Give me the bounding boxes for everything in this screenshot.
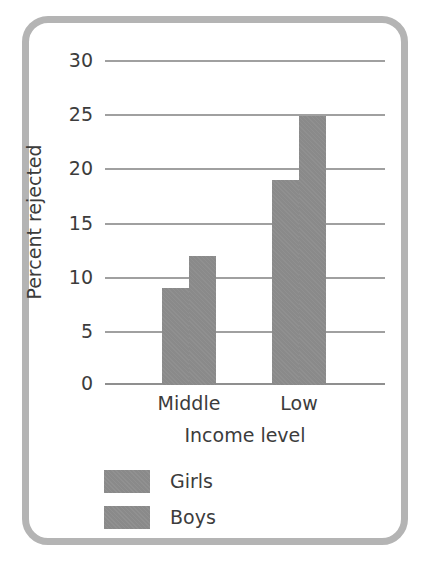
y-tick-label-25: 25 — [69, 103, 93, 125]
y-tick-label-30: 30 — [69, 49, 93, 71]
y-tick-label-10: 10 — [69, 266, 93, 288]
bar-middle-girls — [162, 288, 189, 385]
legend: Girls Boys — [104, 466, 216, 538]
bar-low-girls — [272, 180, 299, 385]
gridline-5: 5 — [105, 331, 385, 333]
plot-area: 30 25 20 15 10 5 0 — [105, 60, 385, 385]
y-tick-label-0: 0 — [81, 372, 93, 394]
legend-swatch-girls — [104, 470, 150, 493]
bar-low-boys — [299, 116, 326, 385]
legend-label-boys: Boys — [170, 506, 216, 528]
legend-item-girls: Girls — [104, 466, 216, 496]
x-tick-label-low: Low — [280, 392, 317, 414]
gridline-15: 15 — [105, 223, 385, 225]
y-tick-label-20: 20 — [69, 157, 93, 179]
legend-label-girls: Girls — [170, 470, 213, 492]
y-tick-label-5: 5 — [81, 320, 93, 342]
gridline-10: 10 — [105, 277, 385, 279]
y-tick-label-15: 15 — [69, 212, 93, 234]
x-axis-title: Income level — [105, 424, 385, 446]
axis-baseline-0: 0 — [105, 383, 385, 385]
bar-middle-boys — [189, 256, 216, 385]
y-axis-title: Percent rejected — [23, 144, 45, 299]
gridline-20: 20 — [105, 168, 385, 170]
x-tick-label-middle: Middle — [158, 392, 221, 414]
legend-item-boys: Boys — [104, 502, 216, 532]
gridline-30: 30 — [105, 60, 385, 62]
legend-swatch-boys — [104, 506, 150, 529]
gridline-25: 25 — [105, 114, 385, 116]
chart-figure: Percent rejected 30 25 20 15 10 5 0 — [0, 0, 439, 573]
